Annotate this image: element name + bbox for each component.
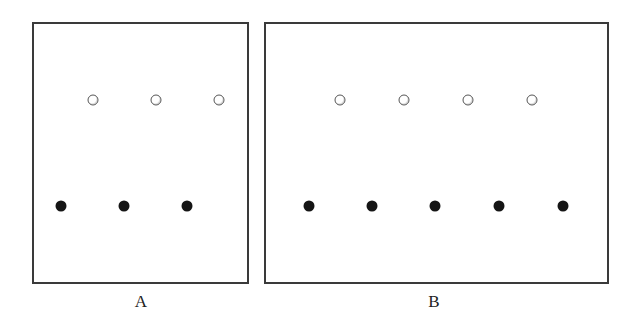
filled-circle-icon xyxy=(56,201,67,212)
filled-circle-icon xyxy=(304,201,315,212)
open-circle-icon xyxy=(214,95,225,106)
filled-circle-icon xyxy=(119,201,130,212)
open-circle-icon xyxy=(527,95,538,106)
filled-circle-icon xyxy=(494,201,505,212)
panel-b xyxy=(264,22,609,284)
open-circle-icon xyxy=(88,95,99,106)
open-circle-icon xyxy=(151,95,162,106)
panel-label-b: B xyxy=(428,292,439,312)
filled-circle-icon xyxy=(367,201,378,212)
panel-label-a: A xyxy=(135,292,147,312)
open-circle-icon xyxy=(335,95,346,106)
filled-circle-icon xyxy=(182,201,193,212)
filled-circle-icon xyxy=(558,201,569,212)
panel-a xyxy=(32,22,249,284)
filled-circle-icon xyxy=(430,201,441,212)
open-circle-icon xyxy=(399,95,410,106)
open-circle-icon xyxy=(463,95,474,106)
